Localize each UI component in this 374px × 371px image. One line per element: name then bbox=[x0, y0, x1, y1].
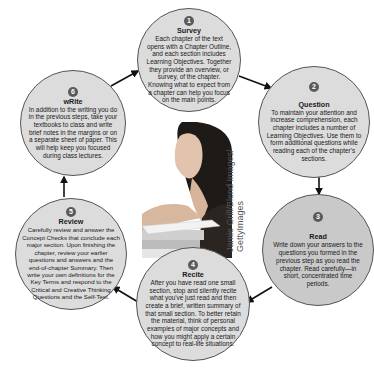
step-title: Read bbox=[309, 233, 327, 241]
step-description: After you have read one small section, s… bbox=[143, 279, 243, 348]
student-photo bbox=[142, 122, 232, 258]
step-number-badge: 6 bbox=[68, 87, 78, 97]
photo-credit-line-1: Jamie Grill/Blend Images/ bbox=[225, 149, 235, 252]
photo-credit: Jamie Grill/Blend Images/ GettyImages bbox=[225, 149, 245, 252]
step-question: 2 Question To maintain your attention an… bbox=[258, 66, 370, 178]
step-number-badge: 2 bbox=[309, 82, 319, 92]
step-title: Question bbox=[298, 101, 329, 109]
step-description: Write down your answers to the questions… bbox=[269, 241, 367, 287]
sq3r-cycle-diagram: Jamie Grill/Blend Images/ GettyImages 1 … bbox=[0, 0, 374, 371]
step-review: 5 Review Carefully review and answer the… bbox=[15, 198, 127, 310]
photo-credit-line-2: GettyImages bbox=[235, 149, 245, 252]
step-write: 6 wRite In addition to the writing you d… bbox=[20, 70, 126, 176]
step-title: Survey bbox=[177, 27, 201, 35]
arrow-read-to-recite bbox=[247, 287, 272, 302]
step-title: wRite bbox=[63, 98, 82, 106]
step-number-badge: 4 bbox=[188, 260, 198, 270]
arrow-write-to-survey bbox=[111, 71, 138, 86]
step-description: In addition to the writing you do in the… bbox=[27, 106, 119, 160]
step-number-badge: 3 bbox=[313, 212, 323, 222]
step-description: To maintain your attention and increase … bbox=[265, 109, 363, 163]
step-number-badge: 1 bbox=[184, 16, 194, 26]
step-description: Each chapter of the text opens with a Ch… bbox=[144, 35, 234, 104]
step-number-badge: 5 bbox=[66, 207, 76, 217]
step-recite: 4 Recite After you have read one small s… bbox=[136, 247, 250, 361]
arrow-survey-to-question bbox=[239, 76, 271, 88]
step-title: Review bbox=[59, 218, 84, 226]
step-survey: 1 Survey Each chapter of the text opens … bbox=[137, 8, 241, 112]
step-title: Recite bbox=[182, 271, 204, 279]
photo-illustration bbox=[142, 122, 232, 258]
step-description: Carefully review and answer the Concept … bbox=[22, 226, 120, 300]
step-read: 3 Read Write down your answers to the qu… bbox=[262, 194, 374, 306]
